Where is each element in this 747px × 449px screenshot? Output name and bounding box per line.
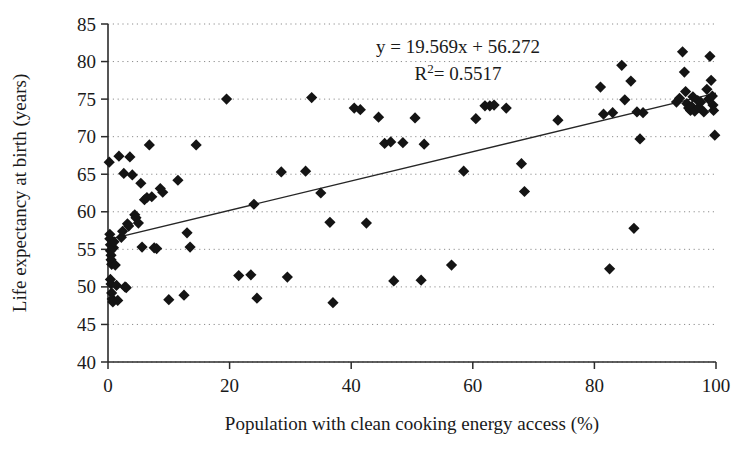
y-tick-label: 50: [77, 276, 96, 297]
regression-equation-label: y = 19.569x + 56.272: [376, 36, 540, 57]
data-point-marker: [118, 168, 129, 179]
data-point-marker: [519, 186, 530, 197]
y-axis-ticks-group: 40455055606570758085: [77, 14, 108, 373]
y-axis-title: Life expectancy at birth (years): [9, 74, 31, 312]
y-tick-label: 70: [77, 126, 96, 147]
data-points-group: [104, 46, 721, 308]
trendline: [108, 93, 716, 239]
data-point-marker: [233, 270, 244, 281]
data-point-marker: [306, 92, 317, 103]
data-point-marker: [470, 113, 481, 124]
data-point-marker: [324, 217, 335, 228]
data-point-marker: [619, 94, 630, 105]
data-point-marker: [679, 66, 690, 77]
x-tick-label: 100: [702, 375, 731, 396]
chart-svg: 40455055606570758085 020406080100 y = 19…: [0, 0, 747, 449]
data-point-marker: [184, 241, 195, 252]
y-tick-label: 55: [77, 239, 96, 260]
y-tick-label: 75: [77, 89, 96, 110]
y-tick-label: 65: [77, 164, 96, 185]
data-point-marker: [181, 227, 192, 238]
r-squared-value: = 0.5517: [434, 63, 502, 84]
data-point-marker: [124, 151, 135, 162]
data-point-marker: [282, 272, 293, 283]
data-point-marker: [595, 81, 606, 92]
data-point-marker: [397, 137, 408, 148]
data-point-marker: [458, 166, 469, 177]
x-tick-label: 60: [463, 375, 482, 396]
gridlines-group: [108, 24, 716, 362]
data-point-marker: [625, 75, 636, 86]
data-point-marker: [221, 94, 232, 105]
data-point-marker: [704, 51, 715, 62]
data-point-marker: [276, 166, 287, 177]
data-point-marker: [245, 269, 256, 280]
data-point-marker: [598, 109, 609, 120]
y-tick-label: 45: [77, 314, 96, 335]
y-tick-label: 60: [77, 201, 96, 222]
data-point-marker: [552, 115, 563, 126]
x-tick-label: 40: [342, 375, 361, 396]
r-squared-label: R2= 0.5517: [415, 61, 502, 84]
data-point-marker: [516, 158, 527, 169]
data-point-marker: [191, 139, 202, 150]
x-tick-label: 80: [585, 375, 604, 396]
data-point-marker: [163, 294, 174, 305]
data-point-marker: [127, 169, 138, 180]
x-axis-ticks-group: 020406080100: [103, 362, 730, 396]
data-point-marker: [135, 178, 146, 189]
data-point-marker: [327, 297, 338, 308]
data-point-marker: [604, 263, 615, 274]
data-point-marker: [178, 290, 189, 301]
data-point-marker: [628, 223, 639, 234]
data-point-marker: [446, 260, 457, 271]
data-point-marker: [136, 241, 147, 252]
data-point-marker: [416, 275, 427, 286]
data-point-marker: [121, 282, 132, 293]
x-tick-label: 20: [220, 375, 239, 396]
data-point-marker: [144, 139, 155, 150]
data-point-marker: [251, 293, 262, 304]
r-squared-symbol: R: [415, 63, 428, 84]
y-tick-label: 85: [77, 14, 96, 35]
data-point-marker: [409, 112, 420, 123]
x-axis-title: Population with clean cooking energy acc…: [225, 413, 599, 435]
data-point-marker: [677, 46, 688, 57]
data-point-marker: [373, 112, 384, 123]
data-point-marker: [248, 199, 259, 210]
data-point-marker: [361, 217, 372, 228]
data-point-marker: [709, 130, 720, 141]
data-point-marker: [419, 139, 430, 150]
data-point-marker: [113, 151, 124, 162]
x-tick-label: 0: [103, 375, 113, 396]
data-point-marker: [104, 157, 115, 168]
scatter-chart: 40455055606570758085 020406080100 y = 19…: [0, 0, 747, 449]
data-point-marker: [300, 166, 311, 177]
y-tick-label: 80: [77, 51, 96, 72]
data-point-marker: [388, 275, 399, 286]
y-tick-label: 40: [77, 352, 96, 373]
data-point-marker: [634, 133, 645, 144]
data-point-marker: [501, 103, 512, 114]
data-point-marker: [172, 175, 183, 186]
